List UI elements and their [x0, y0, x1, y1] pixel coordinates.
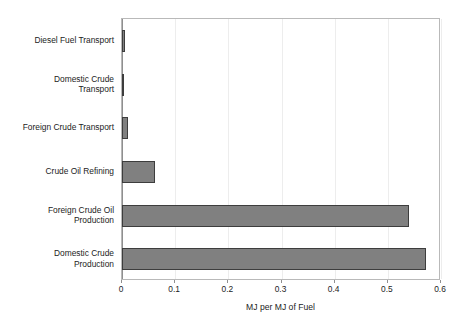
x-tick-label: 0.6 [434, 284, 446, 294]
x-axis-title: MJ per MJ of Fuel [121, 302, 440, 312]
x-tick-label: 0.3 [275, 284, 287, 294]
x-tick-label: 0 [119, 284, 124, 294]
plot-inner [122, 19, 439, 279]
plot-area [121, 18, 440, 280]
category-label: Domestic Crude Production [0, 248, 114, 269]
bar [122, 161, 155, 183]
bar [122, 30, 125, 52]
x-tick-label: 0.5 [381, 284, 393, 294]
gridline [335, 19, 336, 279]
gridline [175, 19, 176, 279]
bar-chart: Diesel Fuel TransportDomestic Crude Tran… [0, 0, 457, 327]
category-label: Diesel Fuel Transport [0, 35, 114, 46]
x-tick-mark [174, 280, 175, 283]
bar [122, 248, 426, 270]
x-tick-mark [281, 280, 282, 283]
y-axis-spine [122, 19, 123, 279]
x-tick-mark [227, 280, 228, 283]
bar [122, 74, 124, 96]
gridline [388, 19, 389, 279]
category-label: Crude Oil Refining [0, 166, 114, 177]
category-label: Domestic Crude Transport [0, 73, 114, 94]
bar [122, 205, 409, 227]
bar [122, 117, 128, 139]
x-tick-mark [121, 280, 122, 283]
x-tick-label: 0.4 [328, 284, 340, 294]
category-label: Foreign Crude Transport [0, 122, 114, 133]
gridline [228, 19, 229, 279]
gridline [282, 19, 283, 279]
category-axis: Diesel Fuel TransportDomestic Crude Tran… [0, 18, 118, 280]
x-tick-label: 0.1 [168, 284, 180, 294]
x-tick-mark [334, 280, 335, 283]
category-label: Foreign Crude Oil Production [0, 204, 114, 225]
x-tick-mark [387, 280, 388, 283]
x-tick-mark [440, 280, 441, 283]
x-tick-label: 0.2 [222, 284, 234, 294]
gridline [441, 19, 442, 279]
x-axis: 00.10.20.30.40.50.6 [121, 280, 440, 300]
